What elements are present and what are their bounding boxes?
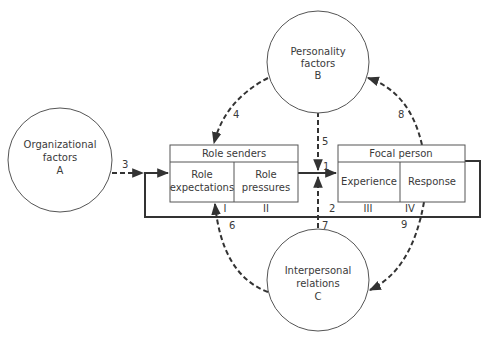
arrow-label-5: 5 [322, 136, 328, 147]
focal-person-box: Focal person Experience Response [338, 145, 465, 202]
arrow-label-6: 6 [229, 220, 235, 231]
arrow-label-2: 2 [329, 203, 335, 214]
circle-b-letter: B [315, 70, 322, 81]
circle-personality-factors: Personality factors B [267, 11, 369, 113]
circle-b-line1: Personality [290, 46, 345, 57]
role-expectations-line2: expectations [170, 182, 234, 193]
circle-a-letter: A [57, 165, 64, 176]
arrow-4-line [214, 78, 268, 143]
circle-c-letter: C [315, 291, 322, 302]
arrow-label-1: 1 [323, 161, 329, 172]
arrow-9-line [370, 202, 424, 290]
arrow-label-4: 4 [233, 109, 239, 120]
numeral-i: I [224, 203, 227, 214]
arrow-label-3: 3 [122, 159, 128, 170]
arrow-label-9: 9 [401, 219, 407, 230]
role-expectations-line1: Role [191, 169, 213, 180]
circle-c-line2: relations [296, 278, 339, 289]
numeral-iii: III [364, 203, 373, 214]
arrow-8-line [368, 78, 422, 145]
arrow-label-7: 7 [322, 220, 328, 231]
circle-b-line2: factors [301, 58, 336, 69]
response-label: Response [408, 176, 456, 187]
circle-a-line2: factors [43, 152, 78, 163]
role-episode-diagram: Organizational factors A Personality fac… [0, 0, 495, 350]
experience-label: Experience [341, 176, 397, 187]
numeral-iv: IV [405, 203, 415, 214]
role-senders-header: Role senders [202, 148, 266, 159]
numeral-ii: II [263, 203, 269, 214]
circle-organizational-factors: Organizational factors A [8, 108, 112, 212]
role-pressures-line2: pressures [242, 182, 290, 193]
circle-c-line1: Interpersonal [285, 265, 352, 276]
focal-person-header: Focal person [369, 148, 432, 159]
circle-interpersonal-relations: Interpersonal relations C [267, 229, 369, 331]
circle-a-line1: Organizational [24, 139, 97, 150]
role-pressures-line1: Role [255, 169, 277, 180]
arrow-label-8: 8 [398, 109, 404, 120]
role-senders-box: Role senders Role expectations Role pres… [170, 145, 298, 202]
